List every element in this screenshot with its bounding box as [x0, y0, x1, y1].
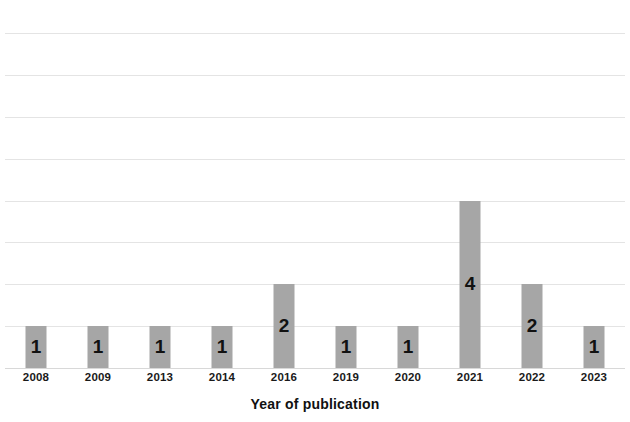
bar-group: 1: [563, 33, 625, 368]
bar-value-label: 2: [527, 316, 537, 335]
x-tick-label: 2023: [581, 371, 607, 383]
bar-group: 1: [377, 33, 439, 368]
x-tick-label: 2008: [23, 371, 49, 383]
x-tick-label: 2020: [395, 371, 421, 383]
bar-value-label: 2: [279, 316, 289, 335]
bars-layer: 1111211421: [5, 33, 625, 368]
plot-area: 1111211421: [5, 33, 625, 368]
bar-value-label: 1: [155, 337, 165, 356]
x-axis-tick-labels: 2008200920132014201620192020202120222023: [5, 371, 625, 393]
bar-value-label: 4: [465, 274, 475, 293]
bar-group: 1: [67, 33, 129, 368]
bar-group: 2: [501, 33, 563, 368]
bar-value-label: 1: [31, 337, 41, 356]
bar-group: 4: [439, 33, 501, 368]
x-axis-title: Year of publication: [0, 396, 630, 412]
x-tick-label: 2022: [519, 371, 545, 383]
bar-group: 2: [253, 33, 315, 368]
x-tick-label: 2019: [333, 371, 359, 383]
x-tick-label: 2016: [271, 371, 297, 383]
x-tick-label: 2009: [85, 371, 111, 383]
bar-group: 1: [5, 33, 67, 368]
x-tick-label: 2021: [457, 371, 483, 383]
bar-value-label: 1: [93, 337, 103, 356]
x-tick-label: 2014: [209, 371, 235, 383]
bar-value-label: 1: [589, 337, 599, 356]
bar-group: 1: [191, 33, 253, 368]
bar-value-label: 1: [341, 337, 351, 356]
bar-chart: 1111211421 20082009201320142016201920202…: [0, 0, 630, 422]
bar-group: 1: [315, 33, 377, 368]
axis-baseline: [5, 368, 625, 369]
bar-group: 1: [129, 33, 191, 368]
bar-value-label: 1: [217, 337, 227, 356]
x-tick-label: 2013: [147, 371, 173, 383]
bar-value-label: 1: [403, 337, 413, 356]
